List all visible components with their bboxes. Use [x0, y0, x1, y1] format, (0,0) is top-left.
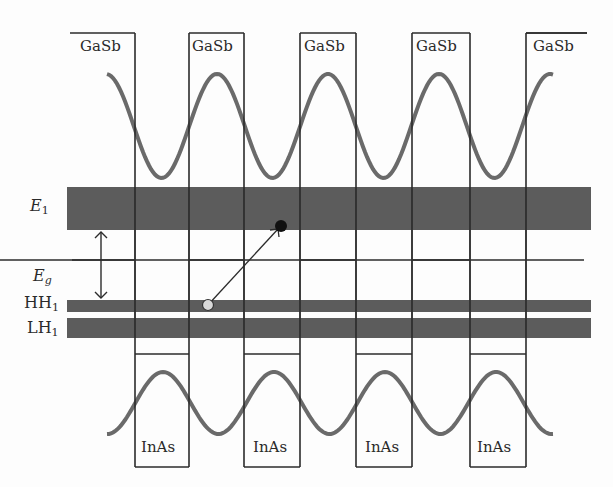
e1-miniband	[67, 187, 591, 230]
hh1-label: HH1	[24, 295, 59, 313]
gasb-layer-label: GaSb	[304, 39, 345, 54]
gasb-layer-label: GaSb	[416, 39, 457, 54]
superlattice-diagram	[0, 0, 613, 487]
gasb-layer-label: GaSb	[80, 39, 121, 54]
hh1-miniband	[67, 300, 591, 312]
inas-layer-label: InAs	[141, 440, 175, 455]
transition-arrow	[208, 229, 278, 305]
valence-wavefunction	[107, 372, 553, 434]
conduction-wavefunction	[107, 74, 553, 178]
eg-label: Eg	[33, 268, 52, 286]
gasb-layer-label: GaSb	[192, 39, 233, 54]
electron-icon	[275, 220, 287, 232]
lh1-miniband	[67, 318, 591, 338]
inas-layer-label: InAs	[365, 440, 399, 455]
inas-layer-label: InAs	[477, 440, 511, 455]
inas-layer-label: InAs	[253, 440, 287, 455]
lh1-label: LH1	[27, 320, 59, 338]
e1-label: E1	[30, 198, 49, 216]
gasb-layer-label: GaSb	[533, 39, 574, 54]
hole-icon	[203, 300, 214, 311]
